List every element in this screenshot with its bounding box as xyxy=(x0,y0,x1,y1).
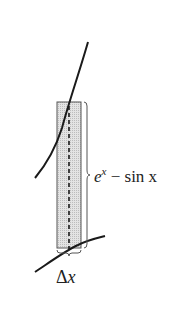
width-label: Δx xyxy=(56,267,76,287)
height-label: ex − sin x xyxy=(94,165,158,186)
area-strip-diagram: ex − sin x Δx xyxy=(0,0,188,310)
height-brace xyxy=(84,102,90,248)
